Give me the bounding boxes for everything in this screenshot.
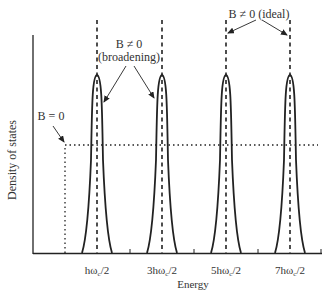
annotation-ideal: B ≠ 0 (ideal) — [229, 7, 290, 21]
x-tick-label-4: 7hωc/2 — [275, 264, 305, 278]
b0-arrow — [53, 126, 64, 142]
x-axis-label: Energy — [177, 278, 209, 290]
broadening-arrow-left — [104, 66, 126, 102]
x-tick-label-1: hωc/2 — [85, 264, 109, 278]
broadening-arrow-right — [134, 66, 154, 98]
annotation-b0: B = 0 — [38, 109, 65, 123]
annotation-broadening-line2: (broadening) — [98, 50, 160, 64]
annotation-broadening-line1: B ≠ 0 — [116, 37, 143, 51]
y-axis-label: Density of states — [5, 120, 19, 200]
ideal-arrow-left — [228, 20, 256, 33]
x-tick-label-3: 5hωc/2 — [211, 264, 241, 278]
density-of-states-diagram: B ≠ 0 (broadening) B ≠ 0 (ideal) B = 0 D… — [0, 0, 335, 301]
x-tick-label-2: 3hωc/2 — [147, 264, 177, 278]
ideal-arrow-right — [262, 20, 287, 35]
